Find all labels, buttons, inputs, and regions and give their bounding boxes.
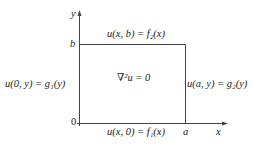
y-tick-b-label: b <box>70 39 75 50</box>
origin-label: 0 <box>71 117 76 128</box>
left-boundary-condition: u(0, y) = g₁(y) <box>5 79 65 90</box>
y-axis-arrow-icon <box>78 10 82 16</box>
y-axis-label: y <box>71 9 76 20</box>
x-axis-label: x <box>216 127 221 138</box>
x-tick-a-label: a <box>183 127 188 138</box>
bottom-boundary-condition: u(x, 0) = f₁(x) <box>107 127 165 138</box>
x-axis-arrow-icon <box>222 122 228 126</box>
right-boundary-condition: u(a, y) = g₂(y) <box>187 79 247 90</box>
laplace-equation: ∇²u = 0 <box>117 73 150 84</box>
top-boundary-condition: u(x, b) = f₂(x) <box>107 29 165 40</box>
